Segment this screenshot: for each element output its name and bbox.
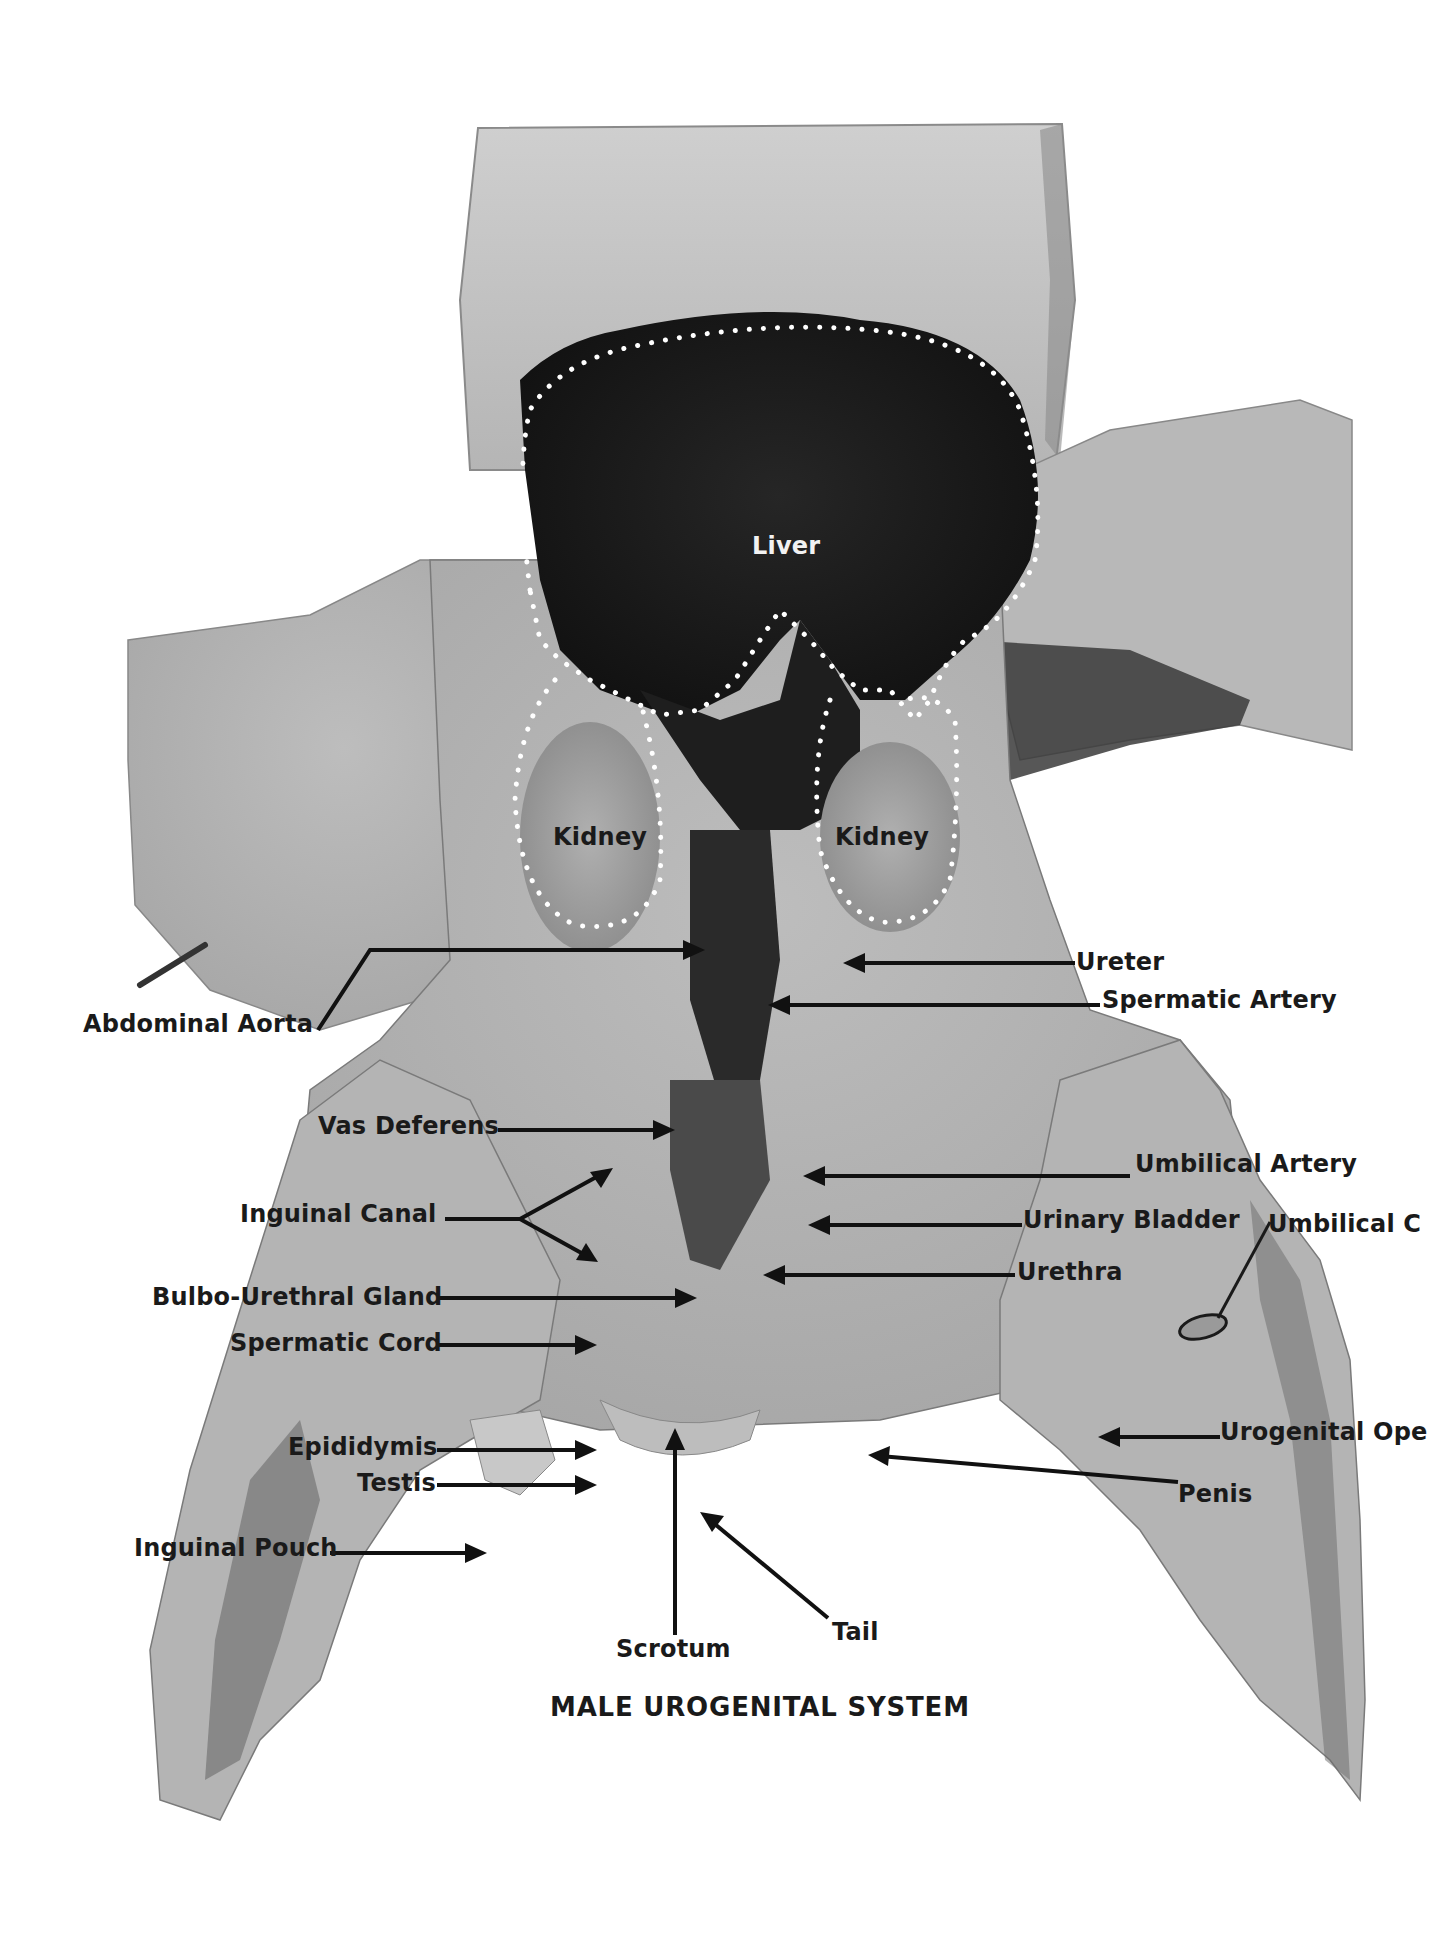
label-inguinal-canal: Inguinal Canal [240,1202,437,1226]
label-urogenital-opening: Urogenital Ope [1220,1420,1428,1444]
inguinal-pouch-shape [470,1410,555,1495]
label-vas-deferens: Vas Deferens [318,1114,499,1138]
label-inguinal-pouch: Inguinal Pouch [134,1536,338,1560]
figure: Liver Kidney Kidney Ureter Spermatic Art… [0,0,1429,1960]
label-ureter: Ureter [1076,950,1164,974]
label-epididymis: Epididymis [288,1435,438,1459]
label-spermatic-cord: Spermatic Cord [230,1331,442,1355]
label-urinary-bladder: Urinary Bladder [1023,1208,1240,1232]
label-testis: Testis [357,1471,436,1495]
label-kidney-right: Kidney [835,825,929,849]
label-umbilical-artery: Umbilical Artery [1135,1152,1357,1176]
label-penis: Penis [1178,1482,1252,1506]
label-liver: Liver [752,534,820,558]
label-tail: Tail [832,1620,879,1644]
label-bulbo-urethral-gland: Bulbo-Urethral Gland [152,1285,442,1309]
dissection-photo [0,0,1429,1960]
figure-title: MALE UROGENITAL SYSTEM [550,1692,970,1722]
label-abdominal-aorta: Abdominal Aorta [83,1012,313,1036]
label-spermatic-artery: Spermatic Artery [1102,988,1337,1012]
label-urethra: Urethra [1017,1260,1123,1284]
label-umbilical-cord: Umbilical C [1268,1212,1421,1236]
label-kidney-left: Kidney [553,825,647,849]
label-scrotum: Scrotum [616,1637,731,1661]
